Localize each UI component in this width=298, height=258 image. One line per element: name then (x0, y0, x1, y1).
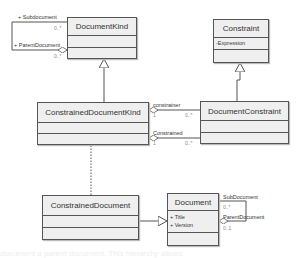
class-name: ConstrainedDocument (43, 196, 138, 216)
class-attributes (38, 123, 148, 134)
multiplicity-label: 0..* (185, 112, 193, 118)
generalization-dc-to-constraint[interactable] (237, 63, 240, 101)
class-name: ConstrainedDocumentKind (38, 103, 148, 123)
class-attributes (43, 216, 138, 228)
role-parentdocument-label: + ParentDocument (14, 42, 60, 48)
multiplicity-label: 0..* (54, 25, 62, 31)
multiplicity-label: 0..* (54, 53, 62, 59)
class-attributes (68, 36, 136, 48)
class-document-kind[interactable]: DocumentKind (67, 17, 137, 59)
role-constrained-label: Constrained (153, 130, 183, 136)
attribute-version: + Version (170, 221, 216, 229)
attribute-title: + Title (170, 213, 216, 221)
multiplicity-label: 1 (153, 112, 156, 118)
class-attributes: + Title + Version (168, 211, 218, 233)
multiplicity-label: 0..1 (223, 225, 231, 231)
dependency-cd-to-cdk[interactable] (90, 144, 92, 195)
background-bleed-text: document a parent document. This hierarc… (0, 249, 183, 258)
attribute-expression: -Expression (216, 39, 266, 47)
class-document[interactable]: Document + Title + Version (167, 193, 219, 246)
multiplicity-label: 0..* (223, 204, 231, 210)
class-constrained-document-kind[interactable]: ConstrainedDocumentKind (37, 102, 149, 145)
role-parentdocument-label: ParentDocument (223, 214, 264, 220)
class-constraint[interactable]: Constraint -Expression (213, 19, 269, 63)
class-name: Document (168, 194, 218, 211)
uml-class-diagram: DocumentKind Constraint -Expression Cons… (0, 0, 298, 258)
class-name: DocumentKind (68, 18, 136, 36)
class-constrained-document[interactable]: ConstrainedDocument (42, 195, 139, 240)
class-attributes (201, 121, 288, 133)
role-constrainer-label: constrainer (153, 102, 180, 108)
class-name: Constraint (214, 20, 268, 38)
class-document-constraint[interactable]: DocumentConstraint (200, 101, 289, 144)
class-name: DocumentConstraint (201, 102, 288, 121)
multiplicity-label: 1 (153, 140, 156, 146)
multiplicity-label: 0..* (185, 140, 193, 146)
class-attributes: -Expression (214, 38, 268, 50)
role-subdocument-label: SubDocument (223, 194, 258, 200)
role-subdocument-label: + Subdocument (18, 14, 57, 20)
